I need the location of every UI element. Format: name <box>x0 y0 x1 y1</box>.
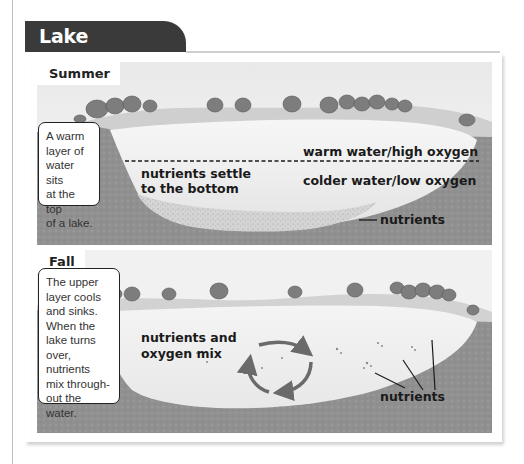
fall-illustration: Fall The upper layer cools and sinks. Wh… <box>37 250 492 433</box>
fall-caption-line: lake turns <box>46 333 113 348</box>
fall-caption-line: When the <box>46 319 113 334</box>
nutrients-oxygen-mix-label-line2: oxygen mix <box>141 346 222 361</box>
fall-caption-line: over, nutrients <box>46 348 113 377</box>
nutrients-settle-label-line2: to the bottom <box>141 181 239 196</box>
summer-label: Summer <box>37 62 120 85</box>
fall-caption-line: mix through- <box>46 377 113 392</box>
cold-water-label: colder water/low oxygen <box>303 173 476 188</box>
nutrients-oxygen-mix-label-line1: nutrients and <box>141 330 237 345</box>
summer-caption-line: water sits <box>46 158 93 187</box>
fall-nutrients-label: nutrients <box>380 389 445 404</box>
summer-caption: A warm layer of water sits at the top of… <box>38 122 100 206</box>
fall-caption: The upper layer cools and sinks. When th… <box>38 268 120 404</box>
summer-caption-line: at the top <box>46 187 93 216</box>
figure-title: Lake Turnover <box>25 21 186 52</box>
summer-caption-line: layer of <box>46 144 93 159</box>
fall-caption-line: out the water. <box>46 391 113 420</box>
fall-caption-line: layer cools <box>46 290 113 305</box>
summer-caption-line: A warm <box>46 129 93 144</box>
summer-caption-line: of a lake. <box>46 216 93 231</box>
page-margin-rule <box>12 0 13 464</box>
summer-nutrients-label: nutrients <box>380 212 445 227</box>
fall-caption-line: and sinks. <box>46 304 113 319</box>
nutrients-settle-label-line1: nutrients settle <box>141 166 251 181</box>
warm-water-label: warm water/high oxygen <box>303 144 478 159</box>
fall-caption-line: The upper <box>46 275 113 290</box>
summer-illustration: Summer A warm layer of water sits at the… <box>37 62 492 245</box>
figure-card: Summer A warm layer of water sits at the… <box>25 53 502 442</box>
